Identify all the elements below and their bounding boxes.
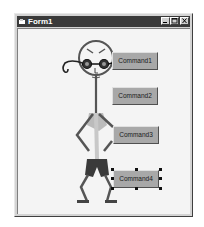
resize-handle-e[interactable]: [159, 177, 162, 180]
window-title: Form1: [28, 16, 52, 27]
command1-button[interactable]: Command1: [112, 52, 158, 70]
maximize-button[interactable]: [170, 17, 179, 25]
close-button[interactable]: [180, 17, 189, 25]
form-window: Form1: [14, 13, 193, 217]
command2-button[interactable]: Command2: [112, 87, 158, 105]
close-icon: [181, 18, 188, 24]
command3-button[interactable]: Command3: [113, 126, 159, 144]
resize-handle-se[interactable]: [159, 187, 162, 190]
command4-button[interactable]: Command4: [113, 170, 159, 188]
stick-figure-image: [18, 29, 193, 217]
resize-handle-ne[interactable]: [159, 168, 162, 171]
resize-handle-w[interactable]: [111, 177, 114, 180]
minimize-icon: [162, 18, 169, 24]
form-icon: [19, 19, 26, 25]
title-bar[interactable]: Form1: [17, 16, 190, 27]
resize-handle-sw[interactable]: [111, 187, 114, 190]
resize-handle-s[interactable]: [135, 187, 138, 190]
maximize-icon: [171, 18, 178, 24]
minimize-button[interactable]: [161, 17, 170, 25]
resize-handle-n[interactable]: [135, 168, 138, 171]
resize-handle-nw[interactable]: [111, 168, 114, 171]
form-design-surface[interactable]: Command1 Command2 Command3 Command4: [17, 28, 190, 214]
